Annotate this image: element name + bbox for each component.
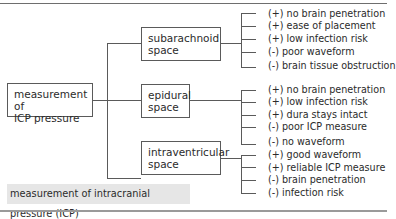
branch-node-subarachnoid: subarachnoid space <box>141 27 221 61</box>
bottom-rule <box>0 210 387 212</box>
bracket-connector <box>221 43 241 44</box>
bracket-connector <box>190 100 241 101</box>
bracket-tick <box>241 127 256 128</box>
list-item: (+) reliable ICP measure <box>268 162 385 173</box>
root-label-line2: ICP pressure <box>14 112 86 124</box>
list-item: (+) ease of placement <box>268 20 376 31</box>
connector-subarachnoid <box>107 43 141 44</box>
branch-label-line2: space <box>148 158 214 170</box>
list-item: (+) dura stays intact <box>268 109 367 120</box>
bracket-tick <box>241 39 256 40</box>
bracket-spine <box>241 90 242 145</box>
bracket-tick <box>241 13 256 14</box>
connector-intraventricular <box>107 178 141 179</box>
list-item: (+) low infection risk <box>268 96 368 107</box>
branch-label-line1: intraventricular <box>148 146 214 158</box>
root-node: measurement of ICP pressure <box>7 83 93 117</box>
trunk-line <box>107 43 108 178</box>
list-item: (+) no brain penetration <box>268 8 385 19</box>
root-label-line1: measurement of <box>14 88 86 112</box>
bracket-tick <box>241 193 256 194</box>
list-item: (+) good waveform <box>268 149 361 160</box>
bracket-tick <box>241 155 256 156</box>
bracket-tick <box>241 180 256 181</box>
branch-label-line2: space <box>148 44 214 56</box>
bracket-connector <box>221 158 241 159</box>
branch-node-epidural: epidural space <box>141 84 190 118</box>
branch-label-line1: epidural <box>148 89 183 101</box>
bracket-tick <box>241 167 256 168</box>
bracket-spine <box>241 155 242 193</box>
root-connector <box>93 100 141 101</box>
bracket-tick <box>241 52 256 53</box>
branch-label-line1: subarachnoid <box>148 32 214 44</box>
bracket-tick <box>241 115 256 116</box>
bracket-tick <box>241 67 256 68</box>
figure-caption: measurement of intracranial pressure (IC… <box>7 184 190 204</box>
list-item: (-) brain penetration <box>268 174 366 185</box>
branch-node-intraventricular: intraventricular space <box>141 141 221 175</box>
bracket-spine <box>241 13 242 68</box>
list-item: (-) brain tissue obstruction <box>268 60 396 71</box>
branch-label-line2: space <box>148 101 183 113</box>
list-item: (-) no waveform <box>268 136 345 147</box>
top-rule <box>0 3 387 4</box>
bracket-tick <box>241 102 256 103</box>
list-item: (-) poor waveform <box>268 46 355 57</box>
list-item: (-) infection risk <box>268 187 344 198</box>
list-item: (-) poor ICP measure <box>268 121 367 132</box>
list-item: (+) low infection risk <box>268 33 368 44</box>
bracket-tick <box>241 90 256 91</box>
list-item: (+) no brain penetration <box>268 84 385 95</box>
bracket-tick <box>241 144 256 145</box>
bracket-tick <box>241 26 256 27</box>
